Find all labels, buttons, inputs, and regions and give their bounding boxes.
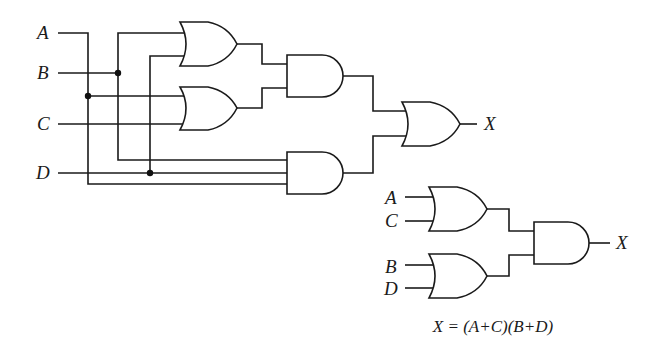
boolean-equation: X = (A+C)(B+D) (432, 317, 554, 336)
wire-and1-to-or3 (343, 76, 406, 111)
input-label-a: A (35, 22, 49, 43)
input-label-c: C (37, 113, 50, 134)
input-label-a-simplified: A (383, 187, 397, 208)
or-gate-3 (402, 102, 460, 146)
output-label-x-simplified: X (615, 232, 629, 253)
wire-or2-to-and1 (237, 88, 287, 108)
or-gate-b-d (429, 254, 487, 298)
or-gate-2 (180, 87, 237, 130)
or-gate-1 (180, 22, 237, 66)
input-label-b: B (37, 62, 49, 83)
wire-or1-to-and1 (237, 44, 287, 64)
input-label-d: D (35, 162, 50, 183)
input-label-d-simplified: D (383, 278, 398, 299)
or-gate-a-c (429, 187, 487, 231)
and-gate-final (534, 222, 589, 264)
and-gate-2 (287, 152, 343, 194)
original-circuit: A B C D (35, 22, 497, 194)
wire-and2-to-or3 (343, 136, 406, 173)
output-label-x: X (483, 113, 497, 134)
logic-diagram: A B C D (0, 0, 655, 349)
and-gate-1 (287, 55, 343, 97)
simplified-circuit: A C B D X X = (A+C)(B+D) (383, 187, 629, 336)
input-label-c-simplified: C (385, 210, 398, 231)
wire-or-a-c-to-and (487, 209, 534, 231)
junction-dot-d (147, 170, 153, 176)
junction-dot-a (85, 93, 91, 99)
wire-d-bus (150, 56, 184, 173)
junction-dot-b (115, 70, 121, 76)
wire-or-b-d-to-and (487, 255, 534, 276)
input-label-b-simplified: B (385, 256, 397, 277)
